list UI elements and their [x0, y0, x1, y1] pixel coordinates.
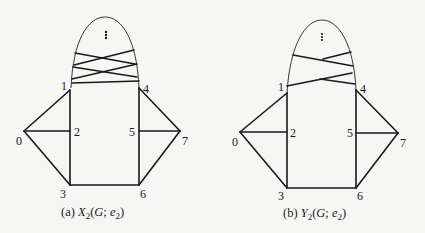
- crossing-edges: [287, 52, 355, 86]
- ellipsis-dots: [321, 33, 323, 41]
- vertex-label-3: 3: [278, 189, 284, 203]
- vertex-label-0: 0: [232, 135, 238, 149]
- vertex-label-2: 2: [290, 126, 296, 140]
- vertex-label-3: 3: [60, 187, 66, 201]
- graph-edges: [240, 90, 398, 188]
- ellipsis-dots: [105, 31, 107, 39]
- diagram-canvas: 0 1 2 3 4 5 6 7 (a) X2(G; e2): [0, 0, 425, 233]
- vertex-label-6: 6: [140, 187, 146, 201]
- vertex-label-6: 6: [357, 189, 363, 203]
- vertex-label-2: 2: [74, 125, 80, 139]
- vertex-label-1: 1: [278, 80, 284, 94]
- figure-a: 0 1 2 3 4 5 6 7 (a) X2(G; e2): [16, 17, 188, 221]
- vertex-label-4: 4: [143, 82, 149, 96]
- figure-b: 0 1 2 3 4 5 6 7 (b) Y2(G; e2): [232, 20, 406, 222]
- caption-a: (a) X2(G; e2): [61, 205, 124, 221]
- caption-b: (b) Y2(G; e2): [283, 206, 346, 222]
- vertex-label-1: 1: [61, 79, 67, 93]
- vertex-label-5: 5: [129, 125, 135, 139]
- graph-edges: [24, 88, 180, 185]
- vertex-label-5: 5: [347, 126, 353, 140]
- vertex-label-7: 7: [400, 136, 406, 150]
- vertex-label-0: 0: [16, 134, 22, 148]
- vertex-label-7: 7: [182, 134, 188, 148]
- vertex-label-4: 4: [360, 82, 366, 96]
- crossing-edges: [72, 50, 139, 83]
